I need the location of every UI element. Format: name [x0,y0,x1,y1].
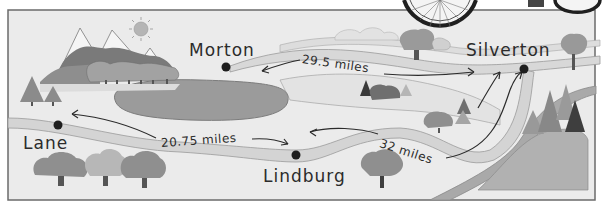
map-illustration: Morton Silverton Lane Lindburg 29.5 mile… [0,0,602,208]
town-label-lindburg: Lindburg [263,166,346,186]
town-label-morton: Morton [189,40,255,60]
town-dot-silverton [520,65,529,74]
town-dot-morton [222,63,231,72]
town-dot-lindburg [292,151,301,160]
town-label-lane: Lane [23,133,68,153]
town-dot-lane [54,121,63,130]
town-label-silverton: Silverton [466,40,551,60]
